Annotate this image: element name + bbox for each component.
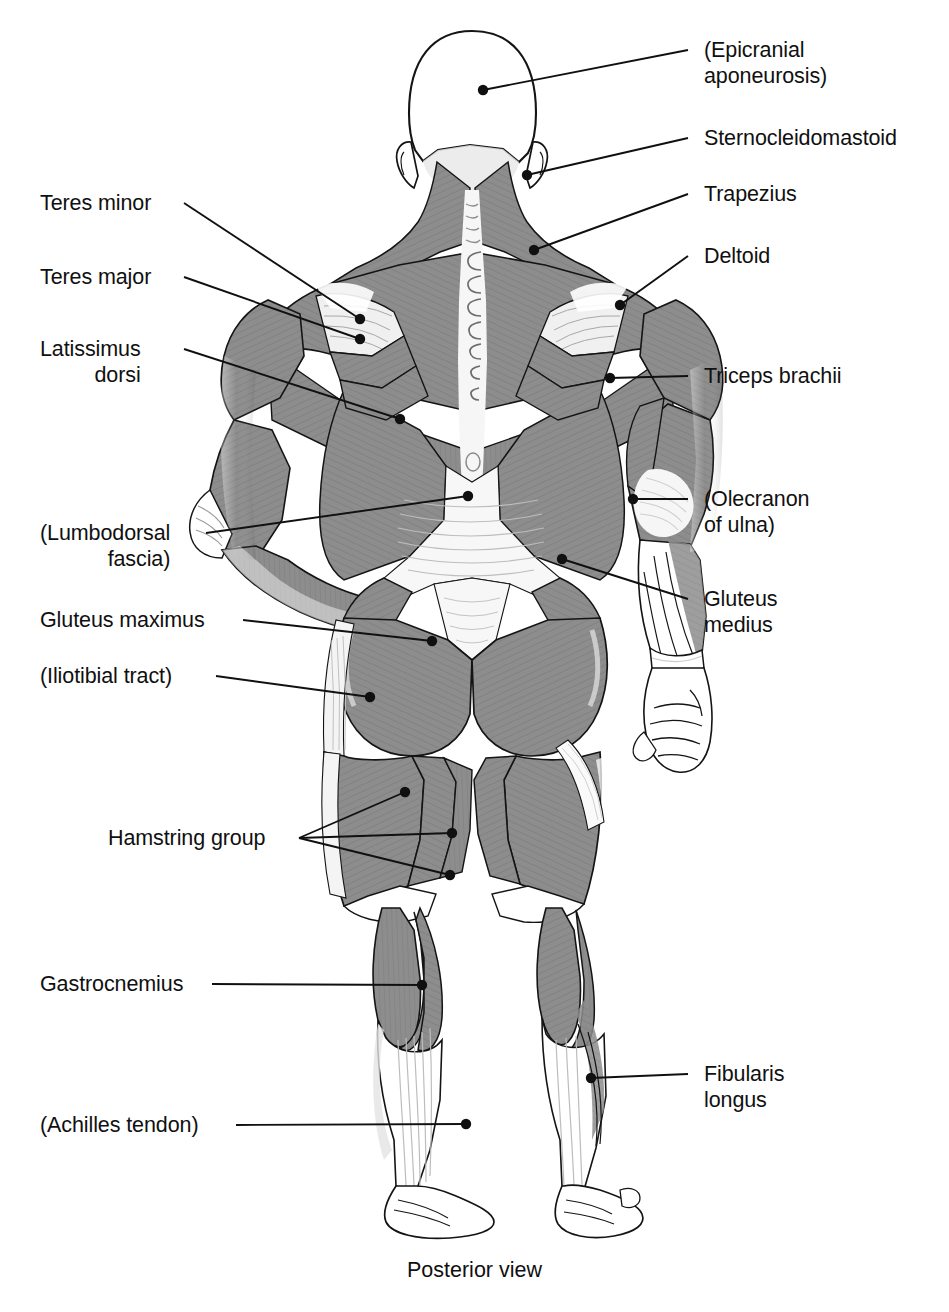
feet-group xyxy=(385,1185,643,1238)
label-latissimus-dorsi[interactable]: Latissimusdorsi xyxy=(40,337,141,388)
label-fibularis-longus[interactable]: Fibularislongus xyxy=(704,1062,784,1113)
label-trapezius[interactable]: Trapezius xyxy=(704,182,797,208)
label-line-2: fascia) xyxy=(108,547,171,571)
label-sternocleidomastoid[interactable]: Sternocleidomastoid xyxy=(704,126,897,152)
label-line-2: longus xyxy=(704,1088,767,1112)
label-teres-major[interactable]: Teres major xyxy=(40,265,151,291)
body-outline-group xyxy=(190,31,723,1238)
label-line-1: (Achilles tendon) xyxy=(40,1113,198,1137)
label-line-1: Teres major xyxy=(40,265,151,289)
label-achilles-tendon[interactable]: (Achilles tendon) xyxy=(40,1113,198,1139)
label-line-1: Fibularis xyxy=(704,1062,784,1086)
figure-caption: Posterior view xyxy=(0,1258,949,1283)
label-gluteus-medius[interactable]: Gluteusmedius xyxy=(704,587,777,638)
label-lumbodorsal-fascia[interactable]: (Lumbodorsalfascia) xyxy=(40,521,170,572)
label-line-2: of ulna) xyxy=(704,513,775,537)
label-epicranial-aponeurosis[interactable]: (Epicranialaponeurosis) xyxy=(704,38,827,89)
thigh-group xyxy=(322,740,613,922)
label-line-2: aponeurosis) xyxy=(704,64,827,88)
anatomy-figure-canvas: (Epicranialaponeurosis) Sternocleidomast… xyxy=(0,0,949,1312)
label-olecranon-of-ulna[interactable]: (Olecranonof ulna) xyxy=(704,487,809,538)
label-line-1: Gluteus xyxy=(704,587,777,611)
label-deltoid[interactable]: Deltoid xyxy=(704,244,770,270)
label-line-2: medius xyxy=(704,613,773,637)
label-line-1: Deltoid xyxy=(704,244,770,268)
label-line-1: Gluteus maximus xyxy=(40,608,205,632)
label-line-1: Trapezius xyxy=(704,182,797,206)
label-line-1: Hamstring group xyxy=(108,826,265,850)
label-hamstring-group[interactable]: Hamstring group xyxy=(108,826,265,852)
label-line-2: dorsi xyxy=(94,363,140,387)
label-line-1: Triceps brachii xyxy=(704,364,842,388)
label-iliotibial-tract[interactable]: (Iliotibial tract) xyxy=(40,664,172,690)
label-triceps-brachii[interactable]: Triceps brachii xyxy=(704,364,842,390)
label-line-1: Latissimus xyxy=(40,337,141,361)
label-line-1: Teres minor xyxy=(40,191,151,215)
head-group xyxy=(397,31,548,192)
label-gluteus-maximus[interactable]: Gluteus maximus xyxy=(40,608,205,634)
calf-group xyxy=(373,908,606,1192)
label-line-1: (Epicranial xyxy=(704,38,804,62)
label-line-1: (Iliotibial tract) xyxy=(40,664,172,688)
label-gastrocnemius[interactable]: Gastrocnemius xyxy=(40,972,183,998)
label-line-1: (Lumbodorsal xyxy=(40,521,170,545)
leader-trapezius xyxy=(529,194,688,255)
gluteal-group xyxy=(324,578,608,756)
label-line-1: Sternocleidomastoid xyxy=(704,126,897,150)
label-line-1: (Olecranon xyxy=(704,487,809,511)
label-teres-minor[interactable]: Teres minor xyxy=(40,191,151,217)
label-line-1: Gastrocnemius xyxy=(40,972,183,996)
